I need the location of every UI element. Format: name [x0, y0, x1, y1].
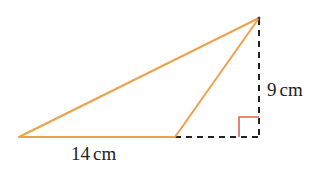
apex-point [258, 17, 261, 20]
height-label: 9cm [267, 80, 303, 99]
base-label: 14cm [71, 144, 116, 163]
base-unit: cm [93, 143, 116, 164]
right-angle-marker [239, 117, 259, 137]
height-value: 9 [267, 79, 277, 100]
base-value: 14 [71, 143, 90, 164]
triangle-diagram: 9cm 14cm [0, 0, 318, 175]
triangle [19, 18, 259, 137]
height-unit: cm [280, 79, 303, 100]
